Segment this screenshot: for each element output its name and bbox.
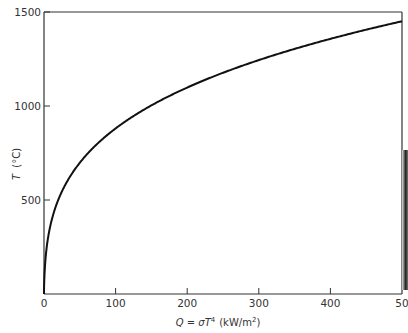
x-tick-label: 200 [177,297,197,309]
x-tick-label: 100 [106,297,126,309]
y-tick-label: 1000 [14,100,41,112]
x-tick-label: 0 [41,297,48,309]
x-tick-label: 400 [320,297,340,309]
x-tick-label: 50 [395,297,408,309]
y-tick-label: 1500 [14,6,41,18]
page-edge-shadow [402,150,408,290]
x-axis-label: Q = σT4(kW/m2) [176,316,261,328]
data-curve [44,21,402,294]
x-tick-label: 300 [249,297,269,309]
plot-frame [44,12,402,294]
y-tick-label: 500 [21,194,41,206]
x-axis-ticks: 010020030040050 [41,288,408,309]
y-axis-label: T (°C) [11,148,22,180]
chart-figure: 50010001500 010020030040050 T (°C) Q = σ… [0,0,408,333]
